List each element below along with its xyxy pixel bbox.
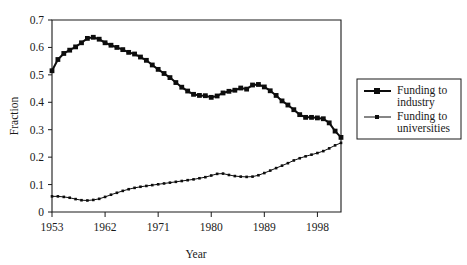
data-point-marker bbox=[275, 167, 278, 170]
legend-marker-industry bbox=[374, 88, 380, 94]
data-point-marker bbox=[263, 172, 266, 175]
data-point-marker bbox=[257, 174, 260, 177]
data-point-marker bbox=[163, 182, 166, 185]
data-point-marker bbox=[204, 176, 207, 179]
data-point-marker bbox=[333, 129, 338, 134]
data-point-marker bbox=[203, 93, 208, 98]
x-tick-label: 1962 bbox=[94, 221, 117, 233]
y-tick-label: 0.5 bbox=[30, 69, 45, 81]
data-point-marker bbox=[298, 157, 301, 160]
data-point-marker bbox=[316, 152, 319, 155]
data-point-marker bbox=[73, 44, 78, 49]
data-point-marker bbox=[232, 88, 237, 93]
data-point-marker bbox=[280, 99, 285, 104]
data-point-marker bbox=[169, 181, 172, 184]
data-point-marker bbox=[156, 67, 161, 72]
data-point-marker bbox=[57, 195, 60, 198]
legend-label-industry-line2: industry bbox=[397, 96, 435, 109]
data-point-marker bbox=[339, 135, 344, 140]
data-point-marker bbox=[315, 116, 320, 121]
x-tick-label: 1953 bbox=[41, 221, 64, 233]
data-point-marker bbox=[68, 196, 71, 199]
data-point-marker bbox=[139, 185, 142, 188]
data-point-marker bbox=[221, 91, 226, 96]
data-point-marker bbox=[97, 37, 102, 42]
x-tick-label: 1998 bbox=[306, 221, 329, 233]
data-point-marker bbox=[227, 89, 232, 94]
data-point-marker bbox=[286, 103, 291, 108]
data-point-marker bbox=[244, 87, 249, 92]
data-point-marker bbox=[144, 58, 149, 63]
data-point-marker bbox=[210, 174, 213, 177]
data-point-marker bbox=[197, 93, 202, 98]
data-point-marker bbox=[185, 89, 190, 94]
data-point-marker bbox=[269, 169, 272, 172]
data-point-marker bbox=[222, 172, 225, 175]
chart-figure: 00.10.20.30.40.50.60.7 19531962197119801… bbox=[0, 0, 467, 265]
legend-marker-universities bbox=[375, 115, 379, 119]
legend-label-universities-line2: universities bbox=[397, 122, 451, 134]
data-point-marker bbox=[192, 178, 195, 181]
data-point-marker bbox=[228, 174, 231, 177]
data-point-marker bbox=[234, 175, 237, 178]
data-point-marker bbox=[145, 185, 148, 188]
data-point-marker bbox=[133, 187, 136, 190]
data-point-marker bbox=[98, 198, 101, 201]
data-point-marker bbox=[304, 155, 307, 158]
y-tick-label: 0.2 bbox=[30, 151, 45, 163]
data-point-marker bbox=[186, 179, 189, 182]
data-point-marker bbox=[85, 36, 90, 41]
data-point-marker bbox=[180, 180, 183, 183]
data-point-marker bbox=[179, 85, 184, 90]
data-point-marker bbox=[51, 195, 54, 198]
data-point-marker bbox=[209, 95, 214, 100]
data-point-marker bbox=[92, 199, 95, 202]
data-point-marker bbox=[173, 80, 178, 85]
data-point-marker bbox=[56, 57, 61, 62]
data-point-marker bbox=[109, 43, 114, 48]
data-point-marker bbox=[287, 162, 290, 165]
data-point-marker bbox=[67, 48, 72, 53]
y-tick-label: 0.6 bbox=[30, 41, 45, 53]
chart-legend: Funding to industry Funding to universit… bbox=[357, 79, 461, 139]
data-point-marker bbox=[132, 52, 137, 57]
data-point-marker bbox=[216, 173, 219, 176]
data-point-marker bbox=[116, 192, 119, 195]
data-point-marker bbox=[103, 40, 108, 45]
data-point-marker bbox=[126, 50, 131, 55]
data-point-marker bbox=[262, 85, 267, 90]
data-point-marker bbox=[191, 92, 196, 97]
data-point-marker bbox=[340, 142, 343, 145]
data-point-marker bbox=[61, 51, 66, 56]
data-point-marker bbox=[79, 40, 84, 45]
data-point-marker bbox=[104, 196, 107, 199]
data-point-marker bbox=[80, 199, 83, 202]
data-point-marker bbox=[168, 75, 173, 80]
data-point-marker bbox=[303, 115, 308, 120]
data-point-marker bbox=[198, 177, 201, 180]
data-point-marker bbox=[334, 144, 337, 147]
data-point-marker bbox=[120, 47, 125, 52]
y-axis-title: Fraction bbox=[8, 97, 20, 136]
x-axis-title: Year bbox=[185, 248, 206, 260]
data-point-marker bbox=[127, 188, 130, 191]
data-point-marker bbox=[151, 184, 154, 187]
data-point-marker bbox=[328, 147, 331, 150]
data-point-marker bbox=[239, 175, 242, 178]
data-point-marker bbox=[297, 112, 302, 117]
y-tick-label: 0.3 bbox=[30, 124, 45, 136]
y-tick-label: 0.1 bbox=[30, 179, 45, 191]
data-point-marker bbox=[322, 150, 325, 153]
data-point-marker bbox=[310, 153, 313, 156]
data-point-marker bbox=[121, 190, 124, 193]
y-tick-label: 0.4 bbox=[30, 96, 45, 108]
data-point-marker bbox=[74, 198, 77, 201]
data-point-marker bbox=[175, 181, 178, 184]
data-point-marker bbox=[251, 175, 254, 178]
data-point-marker bbox=[215, 94, 220, 99]
line-chart: 00.10.20.30.40.50.60.7 19531962197119801… bbox=[0, 0, 467, 265]
data-point-marker bbox=[114, 45, 119, 50]
data-point-marker bbox=[238, 86, 243, 91]
data-point-marker bbox=[63, 196, 66, 199]
data-point-marker bbox=[91, 35, 96, 40]
